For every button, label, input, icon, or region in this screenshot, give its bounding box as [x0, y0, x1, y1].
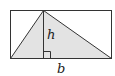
base-label: b [57, 61, 65, 76]
triangle-area-diagram: h b [0, 0, 115, 76]
height-label: h [47, 27, 55, 42]
